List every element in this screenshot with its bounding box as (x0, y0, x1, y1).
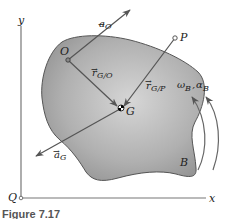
point-o-label: O (60, 45, 69, 58)
point-g-label: G (126, 105, 135, 118)
svg-text:O: O (105, 22, 112, 31)
svg-text:,: , (192, 79, 195, 90)
origin-label-q: Q (8, 191, 17, 204)
svg-text:B: B (184, 84, 191, 93)
svg-text:G/O: G/O (97, 71, 113, 80)
svg-text:G: G (60, 153, 67, 162)
y-axis-label: y (17, 14, 25, 27)
point-p-label: P (179, 31, 188, 44)
point-p (173, 36, 177, 40)
svg-text:G/P: G/P (151, 84, 166, 93)
svg-text:B: B (202, 84, 209, 93)
rigid-body-kinematics-figure: y x Q O P G B → a O → r G/O → r G/P → a … (0, 0, 234, 219)
origin-point-q (19, 196, 23, 200)
body-label-b: B (179, 156, 188, 169)
svg-text:α: α (196, 79, 203, 90)
svg-text:ω: ω (177, 79, 185, 90)
figure-caption: Figure 7.17 (2, 208, 60, 219)
center-of-mass-icon (118, 105, 124, 111)
label-a-g: → a G (53, 147, 67, 162)
point-o (66, 58, 70, 62)
label-a-o: → a O (98, 18, 112, 31)
rotation-arrow-alpha (206, 97, 218, 170)
x-axis-label: x (209, 192, 216, 205)
